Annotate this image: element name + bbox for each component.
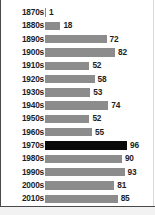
bar-value-label: 18 xyxy=(63,19,72,32)
bar-row: 1900s82 xyxy=(0,46,155,59)
bar-chart: 1870s11880s181890s721900s821910s521920s5… xyxy=(0,0,155,215)
category-label: 2000s xyxy=(0,179,44,192)
category-label: 1910s xyxy=(0,59,44,72)
category-label: 1930s xyxy=(0,86,44,99)
category-label: 1940s xyxy=(0,99,44,112)
bar xyxy=(45,115,89,123)
chart-plot-area: 1870s11880s181890s721900s821910s521920s5… xyxy=(0,6,155,204)
bar-value-label: 55 xyxy=(95,126,104,139)
bar-value-label: 52 xyxy=(92,59,101,72)
bar-row: 1940s74 xyxy=(0,99,155,112)
category-label: 1960s xyxy=(0,126,44,139)
bar-row: 1890s72 xyxy=(0,33,155,46)
bar xyxy=(45,155,122,163)
bar-value-label: 85 xyxy=(121,192,130,205)
bar xyxy=(45,101,108,109)
category-label: 1990s xyxy=(0,166,44,179)
bar-value-label: 1 xyxy=(49,6,53,19)
bar-value-label: 58 xyxy=(98,73,107,86)
category-label: 1950s xyxy=(0,112,44,125)
bar-value-label: 81 xyxy=(117,179,126,192)
bar-value-label: 82 xyxy=(118,46,127,59)
bar xyxy=(45,88,90,96)
bar-value-label: 96 xyxy=(130,139,139,152)
bar xyxy=(45,128,92,136)
bar-row: 1880s18 xyxy=(0,19,155,32)
category-label: 1980s xyxy=(0,152,44,165)
category-label: 1890s xyxy=(0,33,44,46)
bar xyxy=(45,62,89,70)
bar-row: 1870s1 xyxy=(0,6,155,19)
bar-value-label: 90 xyxy=(125,152,134,165)
category-label: 2010s xyxy=(0,192,44,205)
bar xyxy=(45,181,114,189)
bar-value-label: 72 xyxy=(110,33,119,46)
footer-strip xyxy=(0,207,155,215)
category-label: 1920s xyxy=(0,73,44,86)
bar xyxy=(45,22,60,30)
bar-row: 1960s55 xyxy=(0,126,155,139)
bar-row: 1950s52 xyxy=(0,112,155,125)
bar-row: 1920s58 xyxy=(0,73,155,86)
bar-row: 1930s53 xyxy=(0,86,155,99)
category-label: 1970s xyxy=(0,139,44,152)
bar-value-label: 53 xyxy=(93,86,102,99)
bar-row: 1970s96 xyxy=(0,139,155,152)
bar-row: 1980s90 xyxy=(0,152,155,165)
bar-value-label: 93 xyxy=(128,166,137,179)
bar-value-label: 74 xyxy=(111,99,120,112)
category-label: 1900s xyxy=(0,46,44,59)
bar xyxy=(45,75,95,83)
bar xyxy=(45,195,118,203)
bar-row: 1910s52 xyxy=(0,59,155,72)
bar-row: 2010s85 xyxy=(0,192,155,205)
bar xyxy=(45,168,125,176)
bar-value-label: 52 xyxy=(92,112,101,125)
bar-row: 2000s81 xyxy=(0,179,155,192)
bar xyxy=(45,48,115,56)
bar xyxy=(45,8,46,16)
bar-row: 1990s93 xyxy=(0,166,155,179)
category-label: 1870s xyxy=(0,6,44,19)
bar xyxy=(45,35,107,43)
bar-highlighted xyxy=(45,141,127,149)
category-label: 1880s xyxy=(0,19,44,32)
